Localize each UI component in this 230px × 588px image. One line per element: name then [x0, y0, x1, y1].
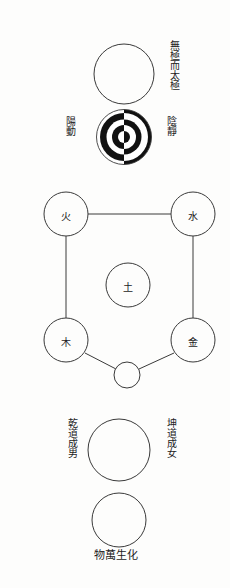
label-yin-jing: 陰靜 — [165, 116, 176, 136]
taiji-symbol — [97, 110, 152, 165]
label-qian-dao-cheng-nan: 乾道成男 — [66, 418, 77, 458]
myriad-things-circle — [92, 493, 146, 547]
union-circle — [114, 362, 140, 388]
element-label-metal: 金 — [188, 334, 198, 349]
diagram-canvas — [0, 0, 230, 588]
element-label-earth: 土 — [123, 279, 133, 294]
label-wuji-er-taiji: 無極而太極 — [168, 40, 179, 90]
element-label-fire: 火 — [61, 208, 71, 223]
taijitu-diagram-page: 無極而太極 陽動 陰靜 乾道成男 坤道成女 物萬生化 火 水 土 木 金 — [0, 0, 230, 588]
element-label-wood: 木 — [61, 334, 71, 349]
wuji-circle — [94, 44, 154, 104]
label-yang-dong: 陽動 — [64, 116, 75, 136]
line-wood-union — [85, 353, 116, 369]
line-metal-union — [139, 353, 174, 369]
male-female-circle — [88, 419, 150, 481]
element-label-water: 水 — [188, 208, 198, 223]
label-wu-wan-sheng-hua: 物萬生化 — [94, 550, 138, 561]
label-kun-dao-cheng-nv: 坤道成女 — [165, 418, 176, 458]
